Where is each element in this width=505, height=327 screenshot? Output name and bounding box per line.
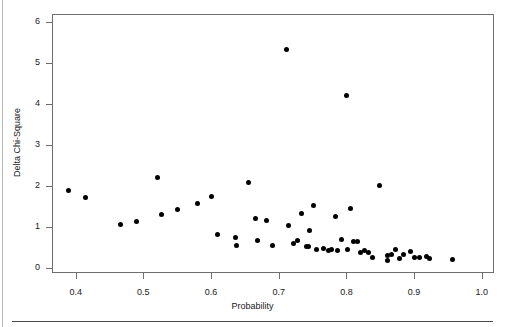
- data-point: [345, 247, 350, 252]
- data-point: [355, 239, 360, 244]
- x-axis-tick-label: 0.6: [191, 287, 231, 297]
- data-point: [270, 243, 275, 248]
- data-point: [408, 249, 413, 254]
- y-axis-title: Delta Chi-Square: [12, 83, 23, 203]
- data-point: [233, 235, 238, 240]
- x-axis-tick-label: 0.4: [56, 287, 96, 297]
- x-axis-tick: [143, 273, 144, 279]
- data-point: [397, 256, 402, 261]
- data-point: [417, 255, 422, 260]
- x-axis-tick: [346, 273, 347, 279]
- y-axis-tick: [46, 268, 52, 269]
- data-point: [450, 257, 455, 262]
- figure-bottom-rule: [12, 321, 493, 322]
- data-point: [385, 258, 390, 263]
- data-point: [377, 183, 382, 188]
- data-point: [66, 188, 71, 193]
- data-point: [255, 238, 260, 243]
- x-axis-tick: [482, 273, 483, 279]
- data-point: [370, 255, 375, 260]
- y-axis-tick-label: 4: [20, 99, 40, 108]
- data-point: [83, 195, 88, 200]
- data-point: [295, 238, 300, 243]
- data-point: [209, 194, 214, 199]
- x-axis-tick-label: 0.8: [326, 287, 366, 297]
- y-axis-tick-label: 0: [20, 263, 40, 272]
- x-axis-title: Probability: [0, 301, 505, 312]
- y-axis-tick-label: 1: [20, 222, 40, 231]
- data-point: [427, 256, 432, 261]
- data-point: [234, 243, 239, 248]
- data-point: [118, 222, 123, 227]
- x-axis-tick: [414, 273, 415, 279]
- data-point: [329, 247, 334, 252]
- data-point: [195, 201, 200, 206]
- data-point: [307, 228, 312, 233]
- y-axis-tick-label: 2: [20, 181, 40, 190]
- data-point: [246, 180, 251, 185]
- data-point: [348, 206, 353, 211]
- x-axis-tick: [279, 273, 280, 279]
- x-axis-tick: [211, 273, 212, 279]
- data-point: [333, 214, 338, 219]
- data-point: [401, 252, 406, 257]
- data-point: [175, 207, 180, 212]
- y-axis-tick: [46, 63, 52, 64]
- data-point: [389, 252, 394, 257]
- data-point: [344, 93, 349, 98]
- y-axis-labels: [20, 0, 44, 327]
- x-axis-tick-label: 0.5: [123, 287, 163, 297]
- data-point: [215, 232, 220, 237]
- y-axis-tick: [46, 145, 52, 146]
- data-point: [335, 248, 340, 253]
- x-axis-tick-label: 1.0: [462, 287, 502, 297]
- y-axis-tick-label: 5: [20, 58, 40, 67]
- data-point: [253, 216, 258, 221]
- x-axis-tick-label: 0.9: [394, 287, 434, 297]
- y-axis-tick: [46, 104, 52, 105]
- figure-left-rule: [2, 0, 3, 327]
- data-point: [311, 203, 316, 208]
- data-point: [155, 175, 160, 180]
- data-point: [284, 47, 289, 52]
- y-axis-tick-label: 6: [20, 17, 40, 26]
- data-point: [159, 212, 164, 217]
- data-point: [286, 223, 291, 228]
- data-point: [393, 247, 398, 252]
- data-point: [134, 219, 139, 224]
- data-point: [264, 218, 269, 223]
- x-axis-tick: [76, 273, 77, 279]
- data-point: [299, 211, 304, 216]
- data-point: [306, 244, 311, 249]
- y-axis-tick-label: 3: [20, 140, 40, 149]
- data-point: [314, 247, 319, 252]
- figure-container: 0.40.50.60.70.80.91.00123456 Probability…: [0, 0, 505, 327]
- y-axis-tick: [46, 227, 52, 228]
- y-axis-tick: [46, 186, 52, 187]
- y-axis-tick: [46, 22, 52, 23]
- scatter-plot-area: [52, 14, 494, 273]
- x-axis-tick-label: 0.7: [259, 287, 299, 297]
- data-point: [339, 237, 344, 242]
